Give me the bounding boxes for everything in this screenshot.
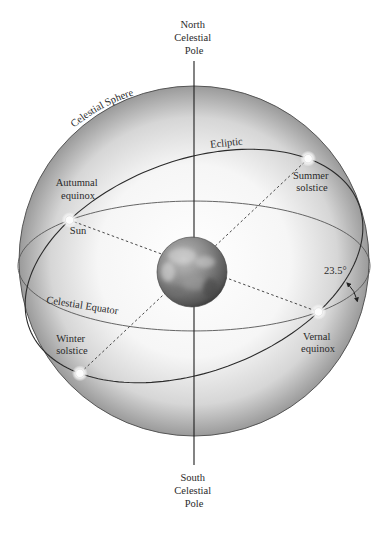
sun-icon	[65, 216, 73, 224]
north-pole-label: North Celestial Pole	[174, 19, 213, 56]
sun-icon	[304, 154, 312, 162]
sun-icon	[76, 369, 84, 377]
winter-solstice-label: Winter solstice	[56, 333, 88, 356]
summer-solstice-label: Summer solstice	[293, 170, 331, 193]
tilt-angle-label: 23.5°	[324, 265, 347, 276]
winter-solstice-point	[72, 365, 88, 381]
vernal-equinox-point	[310, 304, 326, 320]
sun-label: Sun	[70, 225, 87, 236]
south-pole-label: South Celestial Pole	[174, 472, 213, 509]
sun-icon	[314, 308, 322, 316]
celestial-sphere-diagram: North Celestial Pole South Celestial Pol…	[0, 0, 388, 546]
vernal-equinox-label: Vernal equinox	[301, 331, 336, 354]
earth	[157, 237, 227, 307]
summer-solstice-point	[300, 151, 316, 167]
